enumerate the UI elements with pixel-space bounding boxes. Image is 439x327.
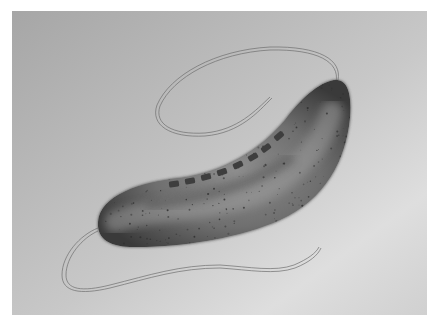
granule: [224, 226, 226, 228]
granule: [292, 130, 294, 132]
granule: [259, 191, 260, 192]
granule: [189, 209, 191, 211]
granule: [329, 84, 330, 85]
granule: [248, 200, 250, 202]
granule: [207, 193, 209, 195]
granule: [274, 177, 276, 179]
granule: [168, 237, 170, 239]
granule: [318, 161, 320, 163]
granule: [122, 205, 124, 207]
granule: [227, 213, 228, 214]
granule: [295, 123, 296, 124]
granule: [320, 102, 321, 103]
granule: [186, 199, 188, 201]
granule: [283, 163, 285, 165]
granule: [300, 200, 302, 202]
granule: [133, 202, 135, 204]
granule: [120, 216, 121, 217]
granule: [137, 229, 138, 230]
granule: [142, 210, 144, 212]
granule: [303, 184, 305, 186]
granule: [273, 212, 275, 214]
granule: [316, 150, 317, 151]
granule: [331, 88, 333, 90]
granule: [139, 236, 141, 238]
granule: [147, 243, 148, 244]
granule: [294, 197, 295, 198]
granule: [318, 149, 319, 150]
granule: [344, 142, 346, 144]
illustration-stage: [0, 0, 439, 327]
granule: [265, 165, 267, 167]
granule: [151, 200, 152, 201]
granule: [158, 214, 159, 215]
granule: [226, 209, 227, 210]
granule: [187, 229, 189, 231]
granule: [218, 191, 220, 193]
granule: [304, 120, 306, 122]
granule: [291, 192, 293, 194]
granule: [218, 203, 219, 204]
granule: [233, 220, 235, 222]
granule: [167, 216, 169, 218]
granule: [243, 176, 244, 177]
granule: [219, 219, 221, 221]
granule: [292, 204, 294, 206]
granule: [269, 202, 271, 204]
granule: [193, 236, 195, 238]
granule: [320, 183, 321, 184]
granule: [301, 205, 303, 207]
granule: [131, 203, 133, 205]
granule: [279, 188, 280, 189]
granule: [301, 141, 302, 142]
granule: [343, 128, 344, 129]
granule: [167, 243, 168, 244]
granule: [340, 97, 341, 98]
granule: [146, 238, 148, 240]
granule: [129, 223, 131, 225]
granule: [294, 124, 295, 125]
granule: [114, 202, 115, 203]
granule: [232, 208, 234, 210]
granule: [105, 221, 106, 222]
granule: [265, 214, 267, 216]
granule: [186, 187, 187, 188]
granule: [207, 236, 208, 237]
granule: [239, 176, 240, 177]
granule: [263, 176, 265, 178]
granule: [343, 110, 344, 111]
granule: [246, 192, 247, 193]
granule: [223, 199, 225, 201]
granule: [110, 213, 112, 215]
granule: [130, 214, 132, 216]
granule: [299, 172, 301, 174]
granule: [299, 197, 300, 198]
granule: [214, 237, 216, 239]
granule: [223, 177, 225, 179]
granule: [251, 192, 252, 193]
granule: [292, 203, 293, 204]
granule: [213, 173, 215, 175]
granule: [288, 202, 289, 203]
granule: [213, 227, 215, 229]
granule: [336, 131, 338, 133]
granule: [149, 238, 151, 240]
granule: [203, 203, 204, 204]
granule: [301, 102, 302, 103]
granule: [123, 243, 125, 245]
granule: [277, 194, 278, 195]
granule: [198, 228, 200, 230]
granule: [189, 242, 190, 243]
granule: [307, 107, 309, 109]
bacterium-illustration: [0, 0, 439, 327]
granule: [156, 240, 157, 241]
granule: [263, 165, 265, 167]
granule: [330, 148, 332, 150]
granule: [278, 154, 279, 155]
granule: [210, 173, 211, 174]
granule: [177, 218, 178, 219]
granule: [206, 198, 208, 200]
granule: [159, 230, 160, 231]
granule: [209, 222, 210, 223]
granule: [212, 205, 213, 206]
